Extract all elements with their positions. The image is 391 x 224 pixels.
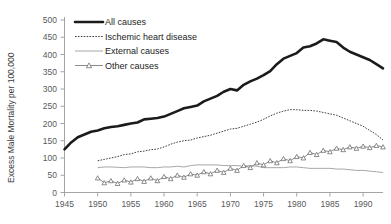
y-tick-label: 350 [43,67,57,77]
y-tick-label: 250 [43,101,57,111]
triangle-marker [202,170,207,174]
triangle-marker [241,163,246,167]
triangle-marker [122,178,127,182]
legend-label: External causes [105,46,170,56]
legend-item-ischemic-heart-disease: Ischemic heart disease [75,32,197,42]
y-tick-label: 300 [43,84,57,94]
triangle-marker [215,168,220,172]
triangle-marker [115,181,120,185]
triangle-marker [109,178,114,182]
y-tick-label: 0 [52,188,57,198]
triangle-marker [361,144,366,148]
x-tick-label: 1950 [88,199,107,209]
triangle-marker [135,176,140,180]
chart-container: Excess Male Mortality per 100,000 050100… [0,0,391,224]
triangle-marker [162,174,167,178]
triangle-marker [148,176,153,180]
x-tick-label: 1990 [354,199,373,209]
series-markers-other-causes [95,143,385,185]
triangle-marker [374,143,379,147]
series-line-external-causes [98,165,383,173]
triangle-marker [268,158,273,162]
legend-label: Other causes [105,61,159,71]
triangle-marker [308,150,313,154]
x-tick-label: 1975 [254,199,273,209]
y-tick-label: 450 [43,32,57,42]
triangle-marker [348,145,353,149]
triangle-marker [155,178,160,182]
x-tick-label: 1985 [320,199,339,209]
y-tick-label: 500 [43,15,57,25]
x-tick-label: 1960 [155,199,174,209]
y-tick-label: 100 [43,153,57,163]
excess-male-mortality-line-chart: Excess Male Mortality per 100,000 050100… [0,0,391,224]
series-line-ischemic-heart-disease [98,110,383,161]
x-tick-label: 1955 [121,199,140,209]
triangle-marker [255,161,260,165]
legend-item-other-causes: Other causes [75,61,159,71]
x-tick-label: 1980 [287,199,306,209]
triangle-marker [228,166,233,170]
y-axis-title-label: Excess Male Mortality per 100,000 [6,52,16,183]
x-tick-label: 1970 [221,199,240,209]
triangle-marker [294,154,299,158]
legend-label: All causes [105,17,147,27]
y-tick-label: 200 [43,119,57,129]
legend-item-external-causes: External causes [75,46,170,56]
triangle-marker [142,179,147,183]
triangle-marker [281,156,286,160]
chart-legend: All causesIschemic heart diseaseExternal… [75,17,197,70]
y-tick-label: 150 [43,136,57,146]
x-tick-label: 1945 [55,199,74,209]
y-tick-label: 400 [43,50,57,60]
triangle-marker [321,148,326,152]
triangle-marker [175,173,180,177]
legend-item-all-causes: All causes [75,17,147,27]
y-axis-title: Excess Male Mortality per 100,000 [6,52,16,183]
y-tick-label: 50 [48,170,58,180]
triangle-marker [334,146,339,150]
triangle-marker [95,176,100,180]
x-axis-ticks: 1945195019551960196519701975198019851990 [55,193,373,210]
legend-label: Ischemic heart disease [105,32,197,42]
triangle-marker [188,172,193,176]
y-axis-ticks: 050100150200250300350400450500 [43,15,65,198]
x-tick-label: 1965 [188,199,207,209]
